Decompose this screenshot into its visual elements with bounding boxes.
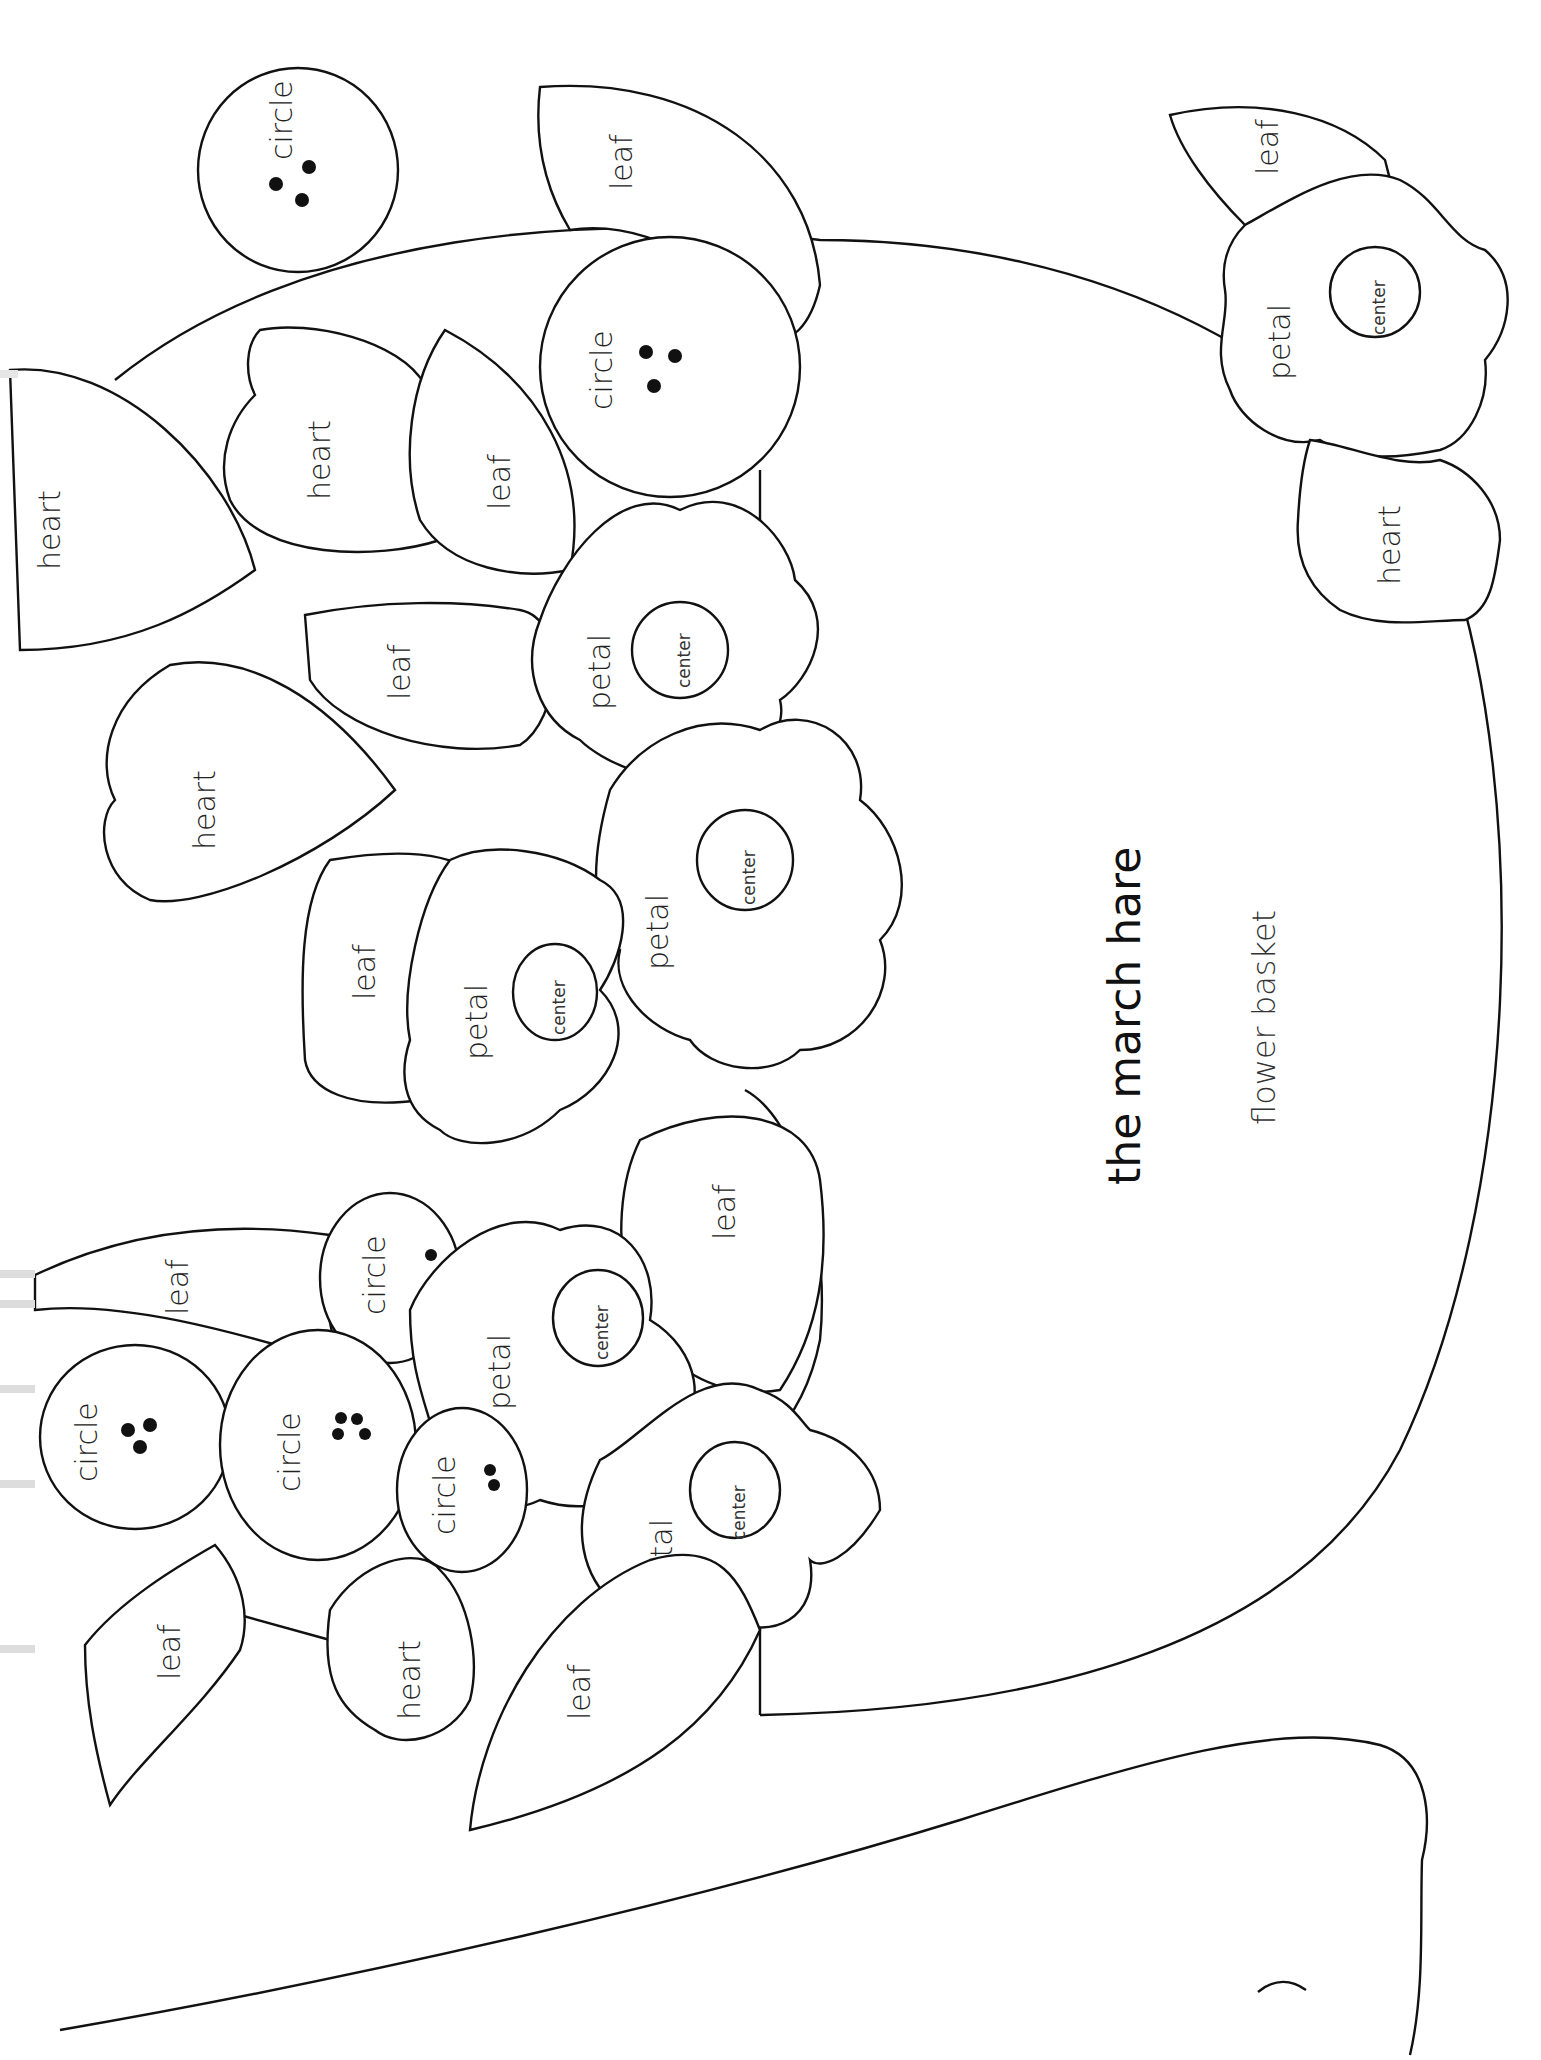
label-petal: petal — [459, 984, 494, 1060]
label-leaf: leaf — [1250, 119, 1285, 175]
label-center: center — [1369, 280, 1389, 335]
shape-circle-top-left: circle — [198, 68, 398, 272]
shape-leaf-bottom-long: leaf — [470, 1555, 760, 1830]
label-leaf: leaf — [160, 1259, 195, 1315]
label-circle: circle — [264, 80, 299, 160]
label-center: center — [592, 1305, 612, 1360]
label-heart: heart — [302, 420, 337, 500]
label-leaf: leaf — [152, 1624, 187, 1680]
label-circle: circle — [69, 1402, 104, 1482]
label-circle: circle — [357, 1235, 392, 1315]
shape-circle-left-3: circle — [397, 1408, 527, 1572]
shape-circle-left-2: circle — [220, 1330, 416, 1560]
label-center: center — [729, 1485, 749, 1540]
shape-leaf-mid-top: leaf — [305, 603, 554, 749]
shape-heart-right: heart — [1298, 440, 1500, 623]
label-leaf: leaf — [382, 644, 417, 700]
label-petal: petal — [582, 634, 617, 710]
hare-eye-arc — [1258, 1982, 1306, 1992]
label-leaf: leaf — [707, 1184, 742, 1240]
label-leaf: leaf — [604, 134, 639, 190]
hare-body-outline — [60, 1737, 1427, 2055]
basket-stem-link — [240, 1615, 330, 1640]
label-heart: heart — [187, 770, 222, 850]
pattern-canvas: circle heart heart leaf leaf circle leaf… — [0, 0, 1541, 2060]
label-heart: heart — [32, 490, 67, 570]
label-leaf: leaf — [482, 454, 517, 510]
label-heart: heart — [1372, 505, 1407, 585]
label-leaf: leaf — [562, 1664, 597, 1720]
shape-flower-3: petal center — [404, 850, 623, 1144]
label-center: center — [549, 980, 569, 1035]
shape-leaf-left-cluster-bottom: leaf — [85, 1545, 245, 1805]
label-circle: circle — [272, 1412, 307, 1492]
shape-flower-right: petal center — [1221, 175, 1508, 457]
label-petal: petal — [482, 1334, 517, 1410]
label-petal: petal — [1262, 304, 1297, 380]
label-petal: petal — [640, 894, 675, 970]
label-center: center — [674, 633, 694, 688]
pattern-title: the march hare — [1099, 847, 1150, 1185]
label-center: center — [739, 850, 759, 905]
shape-flower-2: petal center — [596, 720, 902, 1068]
label-leaf: leaf — [347, 944, 382, 1000]
label-heart: heart — [392, 1640, 427, 1720]
label-circle: circle — [427, 1455, 462, 1535]
shape-circle-left-1: circle — [40, 1345, 230, 1529]
pattern-subtitle: flower basket — [1245, 910, 1283, 1125]
label-circle: circle — [584, 330, 619, 410]
shape-heart-left-bottom: heart — [327, 1558, 473, 1740]
shape-heart-left-1: heart — [10, 369, 255, 650]
shape-circle-top: circle — [540, 237, 800, 497]
